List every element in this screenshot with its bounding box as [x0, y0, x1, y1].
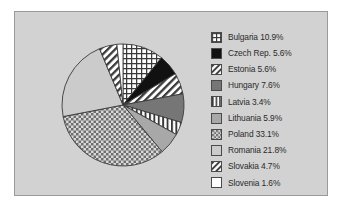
- legend-item[interactable]: Estonia 5.6%: [211, 61, 339, 77]
- legend-item[interactable]: Czech Rep. 5.6%: [211, 45, 339, 61]
- legend-label-hungary: Hungary 7.6%: [228, 81, 280, 89]
- legend-swatch-poland: [211, 129, 222, 140]
- legend-swatch-hungary: [211, 80, 222, 91]
- pie-slice-group: [62, 44, 184, 166]
- legend-label-lithuania: Lithuania 5.9%: [228, 114, 282, 122]
- legend-label-latvia: Latvia 3.4%: [228, 98, 271, 106]
- legend-swatch-latvia: [211, 96, 222, 107]
- legend-item[interactable]: Latvia 3.4%: [211, 94, 339, 110]
- legend-item[interactable]: Slovakia 4.7%: [211, 159, 339, 175]
- legend-swatch-estonia: [211, 64, 222, 75]
- legend-swatch-slovakia: [211, 161, 222, 172]
- chart-legend: Bulgaria 10.9% Czech Rep. 5.6% Estonia 5…: [211, 29, 339, 191]
- legend-label-estonia: Estonia 5.6%: [228, 65, 276, 73]
- legend-swatch-romania: [211, 145, 222, 156]
- legend-label-czech-rep: Czech Rep. 5.6%: [228, 49, 292, 57]
- legend-label-bulgaria: Bulgaria 10.9%: [228, 33, 283, 41]
- chart-figure: Bulgaria 10.9% Czech Rep. 5.6% Estonia 5…: [0, 0, 344, 208]
- chart-panel: Bulgaria 10.9% Czech Rep. 5.6% Estonia 5…: [14, 11, 328, 196]
- legend-swatch-lithuania: [211, 113, 222, 124]
- legend-label-slovenia: Slovenia 1.6%: [228, 179, 280, 187]
- legend-label-poland: Poland 33.1%: [228, 130, 279, 138]
- pie-chart-svg: [61, 43, 185, 167]
- legend-item[interactable]: Romania 21.8%: [211, 142, 339, 158]
- legend-item[interactable]: Slovenia 1.6%: [211, 175, 339, 191]
- legend-label-slovakia: Slovakia 4.7%: [228, 162, 280, 170]
- legend-item[interactable]: Lithuania 5.9%: [211, 110, 339, 126]
- pie-chart: [61, 43, 185, 167]
- legend-item[interactable]: Bulgaria 10.9%: [211, 29, 339, 45]
- legend-swatch-slovenia: [211, 177, 222, 188]
- legend-swatch-czech-rep: [211, 48, 222, 59]
- legend-item[interactable]: Poland 33.1%: [211, 126, 339, 142]
- legend-swatch-bulgaria: [211, 32, 222, 43]
- legend-label-romania: Romania 21.8%: [228, 146, 286, 154]
- legend-item[interactable]: Hungary 7.6%: [211, 78, 339, 94]
